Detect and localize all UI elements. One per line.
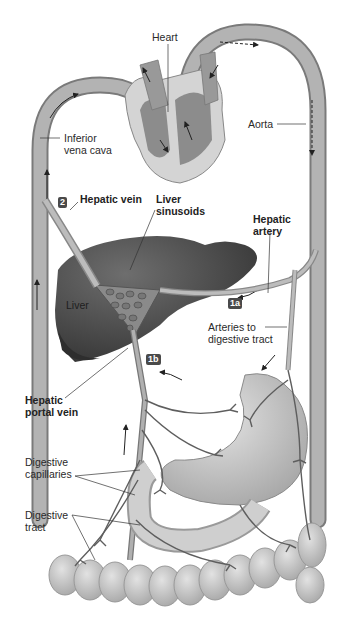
label-digestive-tract: Digestive tract [25, 509, 68, 533]
badge-step-1b: 1b [146, 354, 161, 365]
stomach [161, 374, 307, 505]
label-aorta: Aorta [248, 118, 273, 130]
label-hepatic-vein: Hepatic vein [80, 193, 142, 205]
heart [125, 52, 225, 183]
label-liver-sinusoids: Liver sinusoids [156, 193, 205, 217]
label-digestive-capillaries: Digestive capillaries [25, 456, 72, 480]
label-liver: Liver [66, 299, 89, 311]
label-heart: Heart [152, 31, 178, 43]
label-hepatic-portal-vein: Hepatic portal vein [25, 394, 78, 418]
label-arteries-to-digestive-tract: Arteries to digestive tract [208, 321, 273, 345]
badge-step-1a: 1a [228, 298, 242, 309]
label-inferior-vena-cava: Inferior vena cava [64, 132, 112, 156]
hepatic-portal-diagram: Heart Aorta Inferior vena cava 2 Hepatic… [0, 0, 341, 627]
badge-step-2: 2 [58, 197, 67, 208]
label-hepatic-artery: Hepatic artery [253, 213, 291, 237]
